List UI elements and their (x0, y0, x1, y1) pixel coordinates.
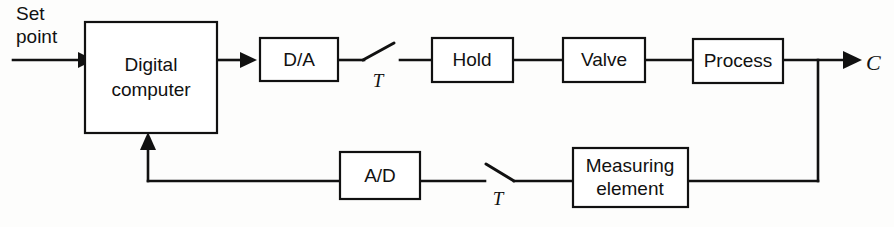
sampler-switch-top[interactable] (363, 43, 394, 60)
wire-computer-to-da (217, 52, 257, 68)
block-label-hold: Hold (452, 49, 491, 70)
block-label-digital-computer-line1: Digital (125, 54, 178, 75)
block-label-ad-converter: A/D (364, 165, 396, 186)
block-measuring-element[interactable]: Measuring element (573, 148, 688, 207)
block-label-measuring-element-line2: element (596, 178, 664, 199)
arrowhead-output-icon (843, 51, 862, 69)
block-diagram: Digital computer D/A Hold Valve Process … (0, 0, 894, 227)
arrowhead-da-icon (240, 52, 257, 68)
label-output-c: C (866, 50, 881, 75)
block-label-measuring-element-line1: Measuring (586, 155, 675, 176)
block-digital-computer[interactable]: Digital computer (85, 22, 217, 133)
sampler-switch-bottom[interactable] (486, 164, 514, 181)
label-sampler-period-bottom: T (493, 188, 505, 209)
block-label-valve: Valve (581, 49, 627, 70)
wire-process-output (783, 51, 862, 69)
block-label-process: Process (704, 50, 773, 71)
block-ad-converter[interactable]: A/D (340, 152, 420, 199)
diagram-canvas: Digital computer D/A Hold Valve Process … (0, 0, 894, 227)
label-sampler-period-top: T (373, 70, 385, 91)
block-hold[interactable]: Hold (432, 38, 513, 82)
label-setpoint: Set point (16, 3, 58, 47)
wire-feedback-into-computer (140, 132, 156, 181)
wire-setpoint-input (13, 52, 94, 68)
block-label-da-converter: D/A (283, 49, 315, 70)
arrowhead-feedback-icon (140, 132, 156, 150)
label-setpoint-line1: Set (16, 3, 45, 24)
block-da-converter[interactable]: D/A (260, 38, 338, 81)
block-valve[interactable]: Valve (563, 38, 645, 82)
block-label-digital-computer-line2: computer (111, 79, 191, 100)
label-setpoint-line2: point (16, 26, 58, 47)
block-process[interactable]: Process (693, 39, 783, 83)
